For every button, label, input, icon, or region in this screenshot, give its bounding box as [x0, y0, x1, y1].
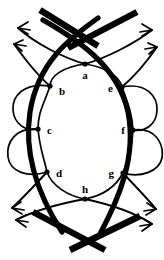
- vertex-label-g: g: [109, 167, 115, 179]
- thick-tail-bottom-left: [33, 212, 105, 250]
- arrow-head-bottom-right-inner: [144, 203, 156, 215]
- arrow-line-bottom-right-inner: [123, 173, 156, 209]
- arrow-head-bottom-left-outer: [16, 215, 28, 227]
- vertex-a: [82, 61, 87, 66]
- arrow-head-top-right-outer: [140, 24, 152, 36]
- arrow-line-bottom-right-outer: [85, 199, 152, 224]
- vertex-b: [47, 83, 52, 88]
- vertex-label-a: a: [82, 69, 88, 81]
- knot-diagram-canvas: abcdefgh: [0, 0, 164, 260]
- knot-diagram-figure: abcdefgh: [0, 0, 164, 260]
- vertex-c: [35, 126, 40, 131]
- vertex-label-f: f: [121, 124, 125, 136]
- arrow-line-top-right-inner: [122, 47, 157, 87]
- arrow-head-bottom-right-outer: [140, 218, 152, 231]
- arrow-ray-group: [12, 28, 157, 224]
- vertex-e: [119, 84, 124, 89]
- arrow-head-top-right-inner: [145, 43, 157, 54]
- vertex-label-c: c: [47, 124, 52, 136]
- arrow-head-top-left-outer: [18, 22, 30, 34]
- vertex-label-b: b: [59, 85, 65, 97]
- vertex-g: [120, 170, 125, 175]
- vertex-h: [82, 196, 87, 201]
- vertex-f: [130, 127, 135, 132]
- arrow-head-top-left-inner: [14, 40, 26, 51]
- vertex-label-d: d: [56, 167, 62, 179]
- vertex-label-h: h: [82, 183, 88, 195]
- arrow-head-bottom-left-inner: [12, 202, 24, 214]
- arrow-line-top-left-inner: [14, 44, 50, 86]
- vertex-d: [44, 169, 49, 174]
- thick-outer-group: [28, 18, 130, 234]
- vertex-label-e: e: [108, 82, 113, 94]
- vertex-label-layer: abcdefgh: [47, 69, 125, 195]
